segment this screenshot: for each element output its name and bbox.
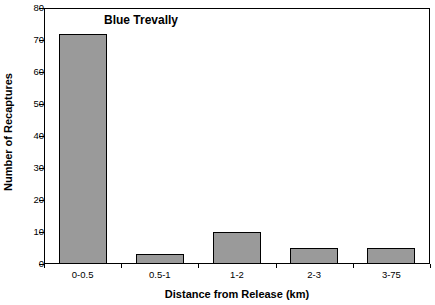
y-axis-ticks: 01020304050607080 [0,0,44,305]
x-tick-mark [121,264,122,268]
bar [136,254,184,264]
x-tick-mark [430,264,431,268]
x-tick-mark [353,264,354,268]
bar [213,232,261,264]
x-tick-label: 3-75 [353,269,430,281]
x-axis-title: Distance from Release (km) [44,288,430,300]
bar-chart-figure: Number of Recaptures 01020304050607080 B… [0,0,435,305]
bar [59,34,107,264]
bar [290,248,338,264]
bar-series [44,8,430,264]
x-tick-mark [198,264,199,268]
chart-title: Blue Trevally [104,13,178,27]
bar [367,248,415,264]
x-tick-label: 2-3 [276,269,353,281]
x-tick-mark [276,264,277,268]
x-tick-label: 1-2 [198,269,275,281]
x-tick-mark [44,264,45,268]
x-tick-label: 0-0.5 [44,269,121,281]
x-tick-label: 0.5-1 [121,269,198,281]
